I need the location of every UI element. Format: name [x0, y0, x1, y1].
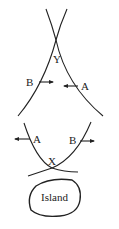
arrowhead-b-top-icon [49, 80, 54, 84]
label-b-bottom: B [69, 134, 76, 146]
island-label: Island [41, 191, 68, 203]
label-y: Y [53, 53, 61, 65]
label-b-top: B [26, 76, 33, 88]
diagram-canvas: Y B A A B X Island [0, 0, 119, 229]
label-x: X [48, 155, 56, 167]
arrowhead-b-bottom-icon [90, 139, 95, 143]
label-a-bottom: A [33, 133, 41, 145]
label-a-top: A [81, 80, 89, 92]
arrowhead-a-bottom-icon [14, 137, 19, 141]
arrowhead-a-top-icon [63, 84, 68, 88]
bottom-curve-b [28, 122, 91, 176]
